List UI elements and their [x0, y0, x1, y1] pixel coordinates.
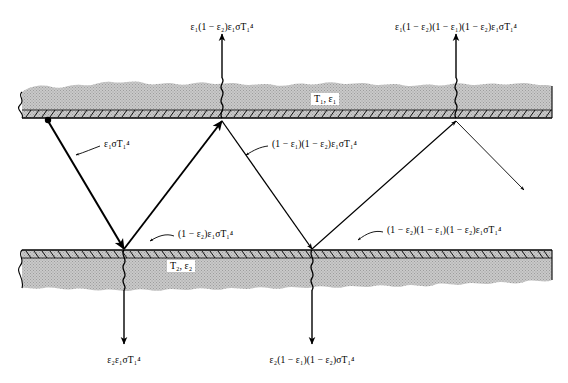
lower-plate	[19, 250, 552, 291]
lower-plate-tag: T₂, ε₂	[167, 260, 195, 272]
leader-reflected-from-bottom-1	[150, 235, 174, 241]
label-absorbed-top-1: ε₁(1 − ε₂)ε₁σT₁⁴	[191, 22, 254, 32]
leader-emitted-from-top	[76, 146, 100, 155]
upper-plate-tag: T₁, ε₁	[311, 93, 339, 105]
label-reflected-from-bottom-2: (1 − ε₂)(1 − ε₁)(1 − ε₂)ε₁σT₁⁴	[387, 225, 501, 235]
label-absorbed-top-2: ε₁(1 − ε₂)(1 − ε₁)(1 − ε₂)ε₁σT₁⁴	[395, 22, 517, 32]
label-emitted-from-top: ε₁σT₁⁴	[104, 139, 130, 149]
diagram-graphics	[0, 0, 568, 383]
upper-plate	[19, 81, 552, 118]
ray-reflected-from-top-2	[456, 121, 524, 190]
label-reflected-from-bottom-1: (1 − ε₂)ε₁σT₁⁴	[178, 229, 233, 239]
leader-reflected-from-top-1	[246, 146, 268, 155]
lower-plate-torn-edge	[19, 250, 23, 288]
label-reflected-from-top-1: (1 − ε₁)(1 − ε₂)ε₁σT₁⁴	[272, 139, 357, 149]
upper-plate-torn-edge	[19, 92, 23, 118]
label-absorbed-bottom-1: ε₂ε₁σT₁⁴	[107, 355, 140, 365]
emission-origin-dot	[45, 117, 51, 123]
leader-reflected-from-bottom-2	[358, 231, 383, 240]
label-absorbed-bottom-2: ε₂(1 − ε₁)(1 − ε₂)σT₁⁴	[270, 355, 355, 365]
radiation-exchange-diagram: ε₁(1 − ε₂)ε₁σT₁⁴ ε₁(1 − ε₂)(1 − ε₁)(1 − …	[0, 0, 568, 383]
